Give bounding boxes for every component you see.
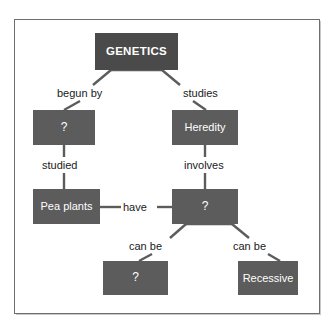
node-founder-label: ? <box>61 121 68 134</box>
link-label-begun-by: begun by <box>55 87 104 100</box>
node-traits-label: ? <box>202 200 209 213</box>
node-traits[interactable]: ? <box>172 189 238 224</box>
node-heredity-label: Heredity <box>185 121 226 133</box>
edge-traits-dominant-upper <box>170 224 186 238</box>
node-founder[interactable]: ? <box>33 110 95 145</box>
edge-traits-recessive-lower <box>268 254 280 261</box>
node-heredity[interactable]: Heredity <box>172 110 238 145</box>
node-pea-plants[interactable]: Pea plants <box>33 189 100 224</box>
link-label-have: have <box>121 201 149 214</box>
edge-genetics-heredity-upper <box>162 70 180 85</box>
edge-genetics-heredity-lower <box>193 101 206 110</box>
node-recessive-label: Recessive <box>243 272 294 284</box>
link-label-studied: studied <box>40 159 79 172</box>
node-genetics-label: GENETICS <box>106 45 167 58</box>
edge-genetics-founder-lower <box>64 101 80 110</box>
link-label-can-be-left: can be <box>127 240 164 253</box>
node-pea-plants-label: Pea plants <box>41 200 93 212</box>
node-dominant-label: ? <box>132 271 139 284</box>
node-recessive[interactable]: Recessive <box>238 261 298 295</box>
link-label-can-be-right: can be <box>231 240 268 253</box>
node-genetics[interactable]: GENETICS <box>95 33 178 70</box>
edge-traits-recessive-upper <box>232 224 249 238</box>
edge-genetics-founder-upper <box>93 70 111 85</box>
link-label-involves: involves <box>182 159 226 172</box>
concept-map-canvas: GENETICS ? Heredity Pea plants ? ? Reces… <box>0 0 331 323</box>
link-label-studies: studies <box>181 87 220 100</box>
node-dominant[interactable]: ? <box>103 261 168 295</box>
edge-traits-dominant-lower <box>139 254 152 261</box>
